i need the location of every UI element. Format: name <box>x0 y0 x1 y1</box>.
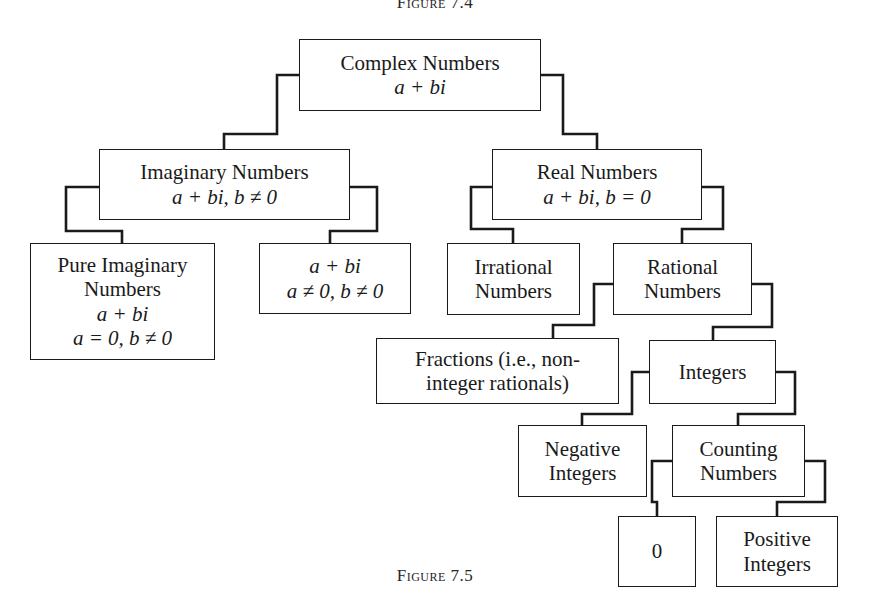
node-line: integer rationals) <box>426 371 569 395</box>
node-line: Imaginary Numbers <box>140 160 309 184</box>
node-line: Numbers <box>84 277 161 301</box>
node-imaginary-numbers[interactable]: Imaginary Numbers a + bi, b ≠ 0 <box>99 149 350 220</box>
node-line: Counting <box>699 437 777 461</box>
node-line: a + bi, b ≠ 0 <box>172 185 277 209</box>
node-fractions[interactable]: Fractions (i.e., non- integer rationals) <box>376 338 619 404</box>
node-line: Numbers <box>644 279 721 303</box>
node-line: 0 <box>652 539 663 563</box>
node-real-numbers[interactable]: Real Numbers a + bi, b = 0 <box>492 149 702 220</box>
node-zero[interactable]: 0 <box>618 516 696 587</box>
figure-canvas: Figure 7.4 Complex Numbers a + bi Imagi <box>0 0 870 610</box>
node-line: Pure Imaginary <box>57 253 187 277</box>
edge-complex-real <box>541 75 597 149</box>
node-rational-numbers[interactable]: Rational Numbers <box>613 243 752 315</box>
node-line: a + bi <box>309 254 361 278</box>
node-complex-numbers[interactable]: Complex Numbers a + bi <box>299 39 541 111</box>
node-line: Numbers <box>700 461 777 485</box>
node-line: Integers <box>679 360 747 384</box>
node-positive-integers[interactable]: Positive Integers <box>716 516 838 587</box>
node-line: Negative <box>545 437 621 461</box>
node-line: Integers <box>549 461 617 485</box>
node-line: Real Numbers <box>537 160 658 184</box>
node-line: Positive <box>743 527 811 551</box>
edge-complex-imaginary <box>224 75 299 149</box>
node-line: Integers <box>743 552 811 576</box>
node-line: Numbers <box>475 279 552 303</box>
edge-counting-zero <box>652 461 672 516</box>
node-line: Rational <box>647 255 718 279</box>
node-line: Fractions (i.e., non- <box>415 347 580 371</box>
node-irrational-numbers[interactable]: Irrational Numbers <box>447 243 580 315</box>
node-line: a = 0, b ≠ 0 <box>73 326 172 350</box>
node-nonreal-nonpure[interactable]: a + bi a ≠ 0, b ≠ 0 <box>259 243 411 314</box>
node-counting-numbers[interactable]: Counting Numbers <box>672 425 805 497</box>
node-line: Complex Numbers <box>340 51 499 75</box>
node-line: a + bi <box>97 302 149 326</box>
node-pure-imaginary-numbers[interactable]: Pure Imaginary Numbers a + bi a = 0, b ≠… <box>30 243 215 360</box>
node-line: Irrational <box>474 255 552 279</box>
node-line: a + bi, b = 0 <box>543 185 651 209</box>
node-integers[interactable]: Integers <box>649 340 776 404</box>
node-line: a + bi <box>394 75 446 99</box>
node-line: a ≠ 0, b ≠ 0 <box>287 279 384 303</box>
node-negative-integers[interactable]: Negative Integers <box>518 425 647 497</box>
